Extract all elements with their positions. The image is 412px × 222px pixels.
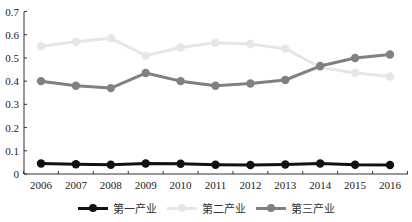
data-point: [386, 161, 394, 169]
legend-item-tertiary: 第三产业: [256, 200, 335, 216]
legend-marker-icon: [167, 203, 197, 213]
x-tick-label: 2007: [65, 179, 88, 191]
data-point: [176, 43, 184, 51]
line-chart: 00.10.20.30.40.50.60.7200620072008200920…: [0, 0, 412, 222]
data-point: [72, 160, 80, 168]
y-tick-label: 0: [14, 168, 20, 180]
data-point: [386, 72, 394, 80]
data-point: [281, 76, 289, 84]
data-point: [142, 159, 150, 167]
data-point: [351, 161, 359, 169]
data-point: [37, 77, 45, 85]
x-tick-label: 2006: [30, 179, 53, 191]
y-tick-label: 0.3: [5, 98, 19, 110]
y-tick-label: 0.7: [5, 6, 19, 18]
data-point: [351, 54, 359, 62]
data-point: [246, 40, 254, 48]
series-group: [37, 34, 394, 169]
data-point: [211, 39, 219, 47]
data-point: [72, 37, 80, 45]
data-point: [176, 160, 184, 168]
series-1: [37, 159, 394, 169]
x-tick-label: 2011: [205, 179, 227, 191]
data-point: [37, 42, 45, 50]
data-point: [281, 44, 289, 52]
data-point: [386, 50, 394, 58]
data-point: [351, 69, 359, 77]
y-tick-label: 0.2: [5, 122, 19, 134]
x-tick-label: 2009: [135, 179, 158, 191]
data-point: [72, 82, 80, 90]
x-tick-label: 2015: [344, 179, 367, 191]
x-tick-label: 2012: [239, 179, 261, 191]
data-point: [211, 161, 219, 169]
data-point: [246, 161, 254, 169]
x-tick-label: 2010: [170, 179, 193, 191]
data-point: [176, 77, 184, 85]
y-tick-label: 0.4: [5, 75, 19, 87]
legend-label: 第三产业: [291, 200, 335, 216]
data-point: [107, 34, 115, 42]
data-point: [246, 79, 254, 87]
data-point: [107, 161, 115, 169]
x-tick-label: 2008: [100, 179, 123, 191]
series-2: [37, 34, 394, 81]
data-point: [37, 159, 45, 167]
y-tick-label: 0.1: [5, 145, 19, 157]
x-tick-label: 2014: [309, 179, 332, 191]
y-tick-label: 0.6: [5, 29, 19, 41]
data-point: [107, 84, 115, 92]
legend-label: 第二产业: [202, 200, 246, 216]
data-point: [142, 69, 150, 77]
x-tick-label: 2013: [274, 179, 297, 191]
legend-marker-icon: [78, 203, 108, 213]
legend-item-primary: 第一产业: [78, 200, 157, 216]
legend: 第一产业 第二产业 第三产业: [0, 196, 412, 220]
data-point: [316, 159, 324, 167]
legend-marker-icon: [256, 203, 286, 213]
data-point: [142, 51, 150, 59]
y-tick-label: 0.5: [5, 52, 19, 64]
data-point: [211, 82, 219, 90]
data-point: [316, 62, 324, 70]
legend-item-secondary: 第二产业: [167, 200, 246, 216]
data-point: [281, 160, 289, 168]
legend-label: 第一产业: [113, 200, 157, 216]
x-tick-label: 2016: [379, 179, 402, 191]
